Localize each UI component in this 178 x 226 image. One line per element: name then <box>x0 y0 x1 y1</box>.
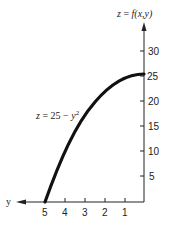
z-tick-25: 25 <box>147 71 159 82</box>
y-tick-3: 3 <box>82 207 88 218</box>
z-axis-arrow-icon <box>142 22 147 31</box>
z-tick-10: 10 <box>148 146 160 157</box>
y-axis-label: y <box>6 196 11 207</box>
y-tick-1: 1 <box>122 207 128 218</box>
y-axis-arrow-icon <box>16 200 26 205</box>
curve-label: z = 25 − y2 <box>35 109 80 121</box>
z-axis-label: z = f(x,y) <box>116 8 153 20</box>
z-tick-5: 5 <box>149 171 155 182</box>
y-ticks <box>65 198 125 202</box>
z-tick-15: 15 <box>148 121 160 132</box>
y-tick-5: 5 <box>42 207 48 218</box>
y-tick-2: 2 <box>102 207 108 218</box>
z-ticks <box>140 51 144 176</box>
z-tick-20: 20 <box>148 96 160 107</box>
graph-canvas: 5 10 15 20 25 30 5 4 3 2 1 y z = f(x,y) … <box>0 0 178 226</box>
z-tick-30: 30 <box>148 46 160 57</box>
y-tick-4: 4 <box>62 207 68 218</box>
parabola-curve <box>45 74 144 202</box>
